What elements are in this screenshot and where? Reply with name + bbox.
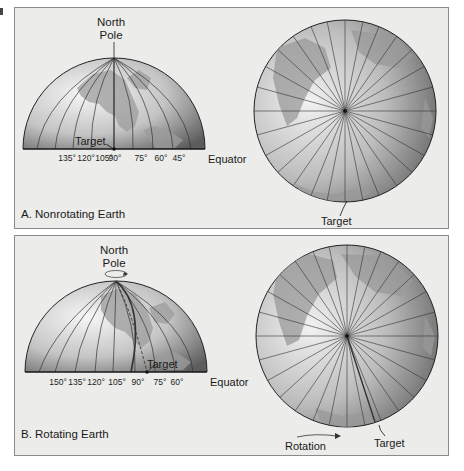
longitude-tick: 60° bbox=[155, 153, 168, 163]
panel-caption: B. Rotating Earth bbox=[21, 428, 109, 440]
longitude-tick: 150° bbox=[49, 377, 67, 387]
target-point bbox=[112, 147, 116, 151]
panel-rotating-earth: North Pole Target Equator 150° 135° 120°… bbox=[14, 235, 449, 456]
longitude-tick: 90° bbox=[109, 153, 122, 163]
polar-view-globe bbox=[256, 245, 438, 439]
target-label: Target bbox=[147, 358, 178, 370]
north-pole-label: North Pole bbox=[100, 244, 128, 270]
hemisphere-side-view bbox=[23, 42, 205, 151]
rotation-arrowhead-icon bbox=[335, 433, 341, 439]
north-pole-label-line1: North bbox=[100, 244, 128, 257]
north-pole-point bbox=[345, 334, 349, 338]
longitude-tick: 120° bbox=[87, 377, 105, 387]
longitude-tick: 135° bbox=[68, 377, 86, 387]
panel-caption: A. Nonrotating Earth bbox=[21, 208, 125, 220]
polar-target-label: Target bbox=[374, 437, 405, 449]
north-pole-label: North Pole bbox=[97, 16, 125, 42]
polar-target-label: Target bbox=[321, 215, 352, 227]
polar-view-globe bbox=[254, 20, 436, 216]
equator-label: Equator bbox=[208, 153, 247, 165]
north-pole-point bbox=[343, 109, 347, 113]
rotation-arrow-icon bbox=[297, 435, 337, 437]
longitude-tick: 135° bbox=[58, 153, 76, 163]
panel-b-graphics bbox=[15, 236, 450, 457]
target-pointer bbox=[379, 425, 385, 436]
rotation-label: Rotation bbox=[285, 440, 326, 452]
longitude-tick: 60° bbox=[171, 377, 184, 387]
north-pole-label-line1: North bbox=[97, 16, 125, 29]
panel-nonrotating-earth: North Pole Target Equator 135° 120° 105°… bbox=[14, 7, 449, 229]
longitude-tick: 75° bbox=[154, 377, 167, 387]
target-point bbox=[145, 370, 149, 374]
longitude-tick: 75° bbox=[135, 153, 148, 163]
panel-a-graphics bbox=[15, 8, 450, 230]
longitude-tick: 120° bbox=[77, 153, 95, 163]
target-label: Target bbox=[75, 135, 106, 147]
corner-mark bbox=[0, 8, 3, 15]
longitude-tick: 90° bbox=[132, 377, 145, 387]
north-pole-label-line2: Pole bbox=[100, 257, 128, 270]
target-pointer bbox=[340, 201, 347, 216]
north-pole-label-line2: Pole bbox=[97, 29, 125, 42]
hemisphere-side-view bbox=[25, 271, 207, 374]
equator-label: Equator bbox=[210, 376, 249, 388]
longitude-tick: 105° bbox=[108, 377, 126, 387]
longitude-tick: 45° bbox=[173, 153, 186, 163]
